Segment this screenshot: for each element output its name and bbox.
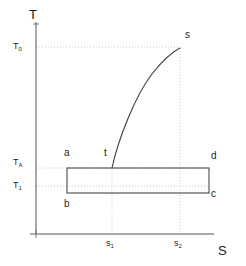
y-tick-label-T0: T0 <box>13 42 22 51</box>
y-tick-label-T1: T1 <box>13 181 22 190</box>
guide-lines <box>36 47 209 234</box>
x-tick-sub-s2: 2 <box>179 243 182 249</box>
axes-lines <box>30 22 214 238</box>
corner-label-c: c <box>211 189 216 199</box>
y-tick-base-TA: T <box>13 157 19 167</box>
y-tick-sub-TA: A <box>19 162 23 168</box>
curve-start-label-t: t <box>104 148 107 158</box>
x-axis-title: S <box>218 244 227 257</box>
y-tick-sub-T0: 0 <box>19 46 22 52</box>
expansion-curve <box>112 48 180 168</box>
corner-label-d: d <box>211 151 217 161</box>
x-tick-base-s2: s <box>174 238 179 248</box>
y-tick-label-TA: TA <box>13 158 23 167</box>
x-tick-base-s1: s <box>106 238 111 248</box>
y-tick-base-T1: T <box>13 180 19 190</box>
diagram-canvas <box>0 0 246 266</box>
y-tick-base-T0: T <box>13 41 19 51</box>
y-tick-sub-T1: 1 <box>19 185 22 191</box>
curve-end-label-s: s <box>185 30 190 40</box>
x-tick-sub-s1: 1 <box>111 243 114 249</box>
y-axis-title: T <box>29 8 37 21</box>
x-tick-label-s2: s2 <box>174 239 182 248</box>
carnot-rectangle <box>67 168 209 193</box>
corner-label-b: b <box>64 199 70 209</box>
x-tick-label-s1: s1 <box>106 239 114 248</box>
corner-label-a: a <box>64 148 70 158</box>
ts-diagram-figure: T S T0 TA T1 s1 s2 a b c d t s <box>0 0 246 266</box>
